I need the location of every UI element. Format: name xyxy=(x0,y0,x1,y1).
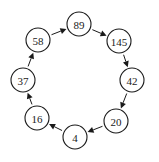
node-42: 42 xyxy=(120,68,144,92)
edge-line xyxy=(124,55,126,62)
node-label: 58 xyxy=(33,35,45,47)
node-58: 58 xyxy=(26,28,50,52)
edge-arrow xyxy=(49,124,62,130)
edge-line xyxy=(28,58,31,66)
edge-arrow xyxy=(120,94,126,109)
edge-arrow xyxy=(28,53,34,67)
node-label: 145 xyxy=(111,36,128,48)
edge-arrow xyxy=(92,30,106,36)
edge-line xyxy=(93,126,102,130)
node-label: 42 xyxy=(127,75,138,87)
node-16: 16 xyxy=(25,106,49,130)
node-4: 4 xyxy=(63,125,87,149)
node-label: 89 xyxy=(74,19,86,31)
edge-arrow xyxy=(123,55,129,67)
edge-line xyxy=(52,31,61,35)
edge-arrow xyxy=(88,126,103,132)
edge-line xyxy=(30,98,32,104)
node-89: 89 xyxy=(67,12,91,36)
node-20: 20 xyxy=(104,109,128,133)
node-label: 4 xyxy=(72,132,78,144)
edge-arrow xyxy=(27,93,33,105)
edge-line xyxy=(92,30,101,34)
node-145: 145 xyxy=(107,29,131,53)
arrowhead-icon xyxy=(123,61,129,68)
edge-line xyxy=(123,94,127,103)
edge-arrow xyxy=(52,28,67,34)
node-label: 20 xyxy=(111,116,123,128)
edge-line xyxy=(54,127,62,131)
node-label: 37 xyxy=(18,75,30,87)
node-label: 16 xyxy=(32,113,44,125)
nodes-group: 8914542204163758 xyxy=(11,12,144,149)
cycle-diagram: 8914542204163758 xyxy=(0,0,159,162)
node-37: 37 xyxy=(11,68,35,92)
